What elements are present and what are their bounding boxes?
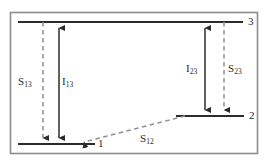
transition-label-i13: I13: [62, 76, 73, 87]
level-label-3: 3: [248, 16, 254, 27]
level-label-2: 2: [249, 110, 255, 121]
transition-label-s13: S13: [18, 76, 32, 87]
transition-subscript-s23: 23: [234, 67, 242, 76]
level-label-1: 1: [98, 138, 104, 149]
transition-subscript-s13: 13: [24, 80, 32, 89]
transition-subscript-i23: 23: [190, 67, 198, 76]
diagram-canvas: [0, 0, 268, 166]
figure-border: [11, 13, 258, 154]
energy-level-diagram: 3 2 1 S13 I13 I23 S23 S12: [0, 0, 268, 166]
transition-label-s23: S23: [228, 63, 242, 74]
transition-label-i23: I23: [186, 63, 197, 74]
transition-label-s12: S12: [140, 133, 154, 144]
transition-subscript-s12: 12: [146, 137, 154, 146]
transition-subscript-i13: 13: [66, 80, 74, 89]
